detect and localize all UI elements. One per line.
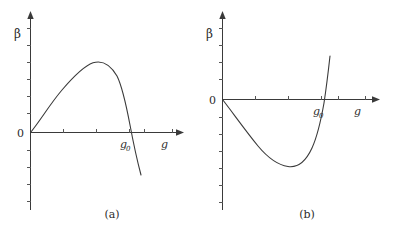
x-axis-arrowhead-a <box>176 129 184 135</box>
origin-label-b: 0 <box>209 94 216 107</box>
zero-crossing-subscript-a: 0 <box>126 145 131 153</box>
origin-label-a: 0 <box>17 127 24 140</box>
y-axis-arrowhead-b <box>219 11 225 19</box>
zero-crossing-subscript-b: 0 <box>319 112 324 120</box>
caption-a: (a) <box>82 208 142 221</box>
beta-function-figure: β 0 g g 0 <box>0 0 399 244</box>
x-axis-label-b: g <box>354 105 361 118</box>
y-axis-arrowhead-a <box>27 11 33 19</box>
y-axis-label-a: β <box>14 27 21 41</box>
y-axis-label-b: β <box>206 27 213 41</box>
x-axis-label-a: g <box>161 138 168 151</box>
beta-curve-a <box>31 62 142 175</box>
caption-b: (b) <box>277 208 337 221</box>
x-axis-arrowhead-b <box>372 96 380 102</box>
